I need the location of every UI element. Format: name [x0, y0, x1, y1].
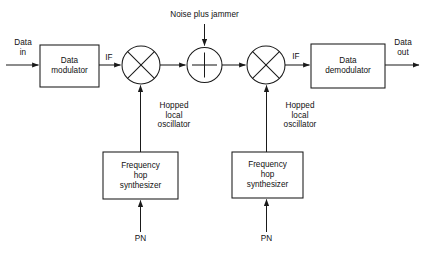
noise-plus-jammer-label: Noise plus jammer	[152, 10, 257, 20]
if-right-label: IF	[287, 52, 305, 62]
data-in-label: Data in	[3, 38, 43, 57]
hopped-local-oscillator-tx-label: Hopped local oscillator	[144, 101, 204, 130]
block-diagram-canvas: Data modulator Data demodulator Frequenc…	[0, 0, 425, 254]
pn-rx-label: PN	[252, 234, 281, 244]
data-modulator-label: Data modulator	[40, 45, 99, 87]
hopped-local-oscillator-rx-label: Hopped local oscillator	[270, 101, 330, 130]
if-left-label: IF	[100, 53, 118, 63]
diagram-vector-layer	[0, 0, 425, 254]
freq-hop-synthesizer-tx-label: Frequency hop synthesizer	[103, 152, 178, 199]
data-demodulator-label: Data demodulator	[311, 44, 385, 88]
pn-tx-label: PN	[126, 234, 155, 244]
data-out-label: Data out	[384, 38, 422, 57]
freq-hop-synthesizer-rx-label: Frequency hop synthesizer	[232, 152, 303, 198]
